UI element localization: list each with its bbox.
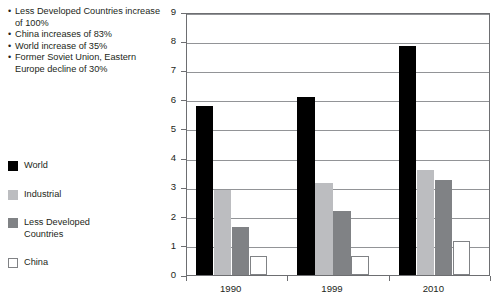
x-axis-tick-label: 1999 — [302, 283, 362, 294]
legend-label: Industrial — [24, 189, 61, 201]
y-axis-tick-mark — [181, 71, 186, 72]
bullet-icon: • — [8, 29, 15, 41]
bar-china-1990 — [250, 256, 268, 275]
y-axis-tick-label: 3 — [154, 182, 176, 192]
bar-less-developed-countries-2010 — [435, 180, 453, 275]
x-axis-tick-mark — [389, 276, 390, 281]
plot-area — [186, 13, 490, 276]
y-axis-tick-label: 9 — [154, 7, 176, 17]
annotation-item: • Less Developed Countries increase of 1… — [8, 6, 166, 29]
legend-swatch-icon — [8, 258, 18, 268]
y-axis-tick-mark — [181, 159, 186, 160]
y-axis-tick-label: 8 — [154, 36, 176, 46]
legend-swatch-icon — [8, 190, 18, 200]
bullet-icon: • — [8, 41, 15, 53]
y-axis-tick-mark — [181, 129, 186, 130]
annotation-item: • Former Soviet Union, Eastern Europe de… — [8, 52, 166, 75]
x-axis-tick-mark — [490, 276, 491, 281]
y-axis-tick-mark — [181, 188, 186, 189]
bullet-icon: • — [8, 52, 15, 64]
bar-less-developed-countries-1990 — [232, 227, 250, 275]
annotation-text: Former Soviet Union, Eastern Europe decl… — [15, 52, 166, 75]
gridline — [187, 43, 489, 44]
legend-item-industrial: Industrial — [8, 189, 158, 201]
gridline — [187, 160, 489, 161]
bar-world-1999 — [297, 97, 315, 275]
bullet-icon: • — [8, 6, 15, 18]
legend-label: China — [24, 257, 48, 269]
y-axis-tick-mark — [181, 42, 186, 43]
gridline — [187, 14, 489, 15]
x-axis-tick-label: 2010 — [403, 283, 463, 294]
bar-world-1990 — [196, 106, 214, 275]
gridline — [187, 72, 489, 73]
annotation-text: China increases of 83% — [15, 29, 166, 41]
y-axis-tick-mark — [181, 217, 186, 218]
gridline — [187, 101, 489, 102]
bar-industrial-1990 — [214, 190, 232, 275]
bar-industrial-1999 — [315, 183, 333, 275]
y-axis-tick-label: 5 — [154, 124, 176, 134]
bar-world-2010 — [399, 46, 417, 275]
annotation-text: Less Developed Countries increase of 100… — [15, 6, 166, 29]
chart-legend: World Industrial Less Developed Countrie… — [8, 160, 158, 286]
y-axis-tick-label: 1 — [154, 241, 176, 251]
x-axis-tick-mark — [287, 276, 288, 281]
bar-china-2010 — [453, 241, 471, 275]
y-axis-tick-mark — [181, 246, 186, 247]
y-axis-tick-label: 4 — [154, 153, 176, 163]
y-axis-tick-label: 2 — [154, 212, 176, 222]
legend-swatch-icon — [8, 161, 18, 171]
annotation-item: • China increases of 83% — [8, 29, 166, 41]
y-axis-tick-mark — [181, 13, 186, 14]
legend-label: World — [24, 160, 48, 172]
chart-plot: 0123456789199019992010 — [186, 13, 490, 277]
annotation-text: World increase of 35% — [15, 41, 166, 53]
legend-item-china: China — [8, 257, 158, 269]
legend-label: Less Developed Countries — [24, 217, 108, 240]
bar-china-1999 — [351, 256, 369, 275]
annotation-item: • World increase of 35% — [8, 41, 166, 53]
legend-item-world: World — [8, 160, 158, 172]
x-axis-tick-label: 1990 — [201, 283, 261, 294]
y-axis-tick-label: 7 — [154, 65, 176, 75]
y-axis-tick-label: 6 — [154, 95, 176, 105]
chart-page: • Less Developed Countries increase of 1… — [0, 0, 497, 307]
bar-industrial-2010 — [417, 170, 435, 275]
y-axis-tick-label: 0 — [154, 270, 176, 280]
legend-swatch-icon — [8, 218, 18, 228]
gridline — [187, 130, 489, 131]
legend-item-less-developed-countries: Less Developed Countries — [8, 217, 158, 240]
annotation-list: • Less Developed Countries increase of 1… — [8, 6, 166, 76]
y-axis-tick-mark — [181, 100, 186, 101]
bar-less-developed-countries-1999 — [333, 211, 351, 275]
x-axis-tick-mark — [186, 276, 187, 281]
